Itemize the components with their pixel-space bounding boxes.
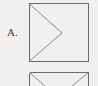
figure-container: A. [0,0,98,86]
triangle-lower-diagonal [30,33,63,61]
lower-diagonal-left [30,73,45,86]
triangle-upper-diagonal [30,4,63,33]
figure-drawing [0,0,98,86]
lower-diagonal-right [72,73,88,86]
